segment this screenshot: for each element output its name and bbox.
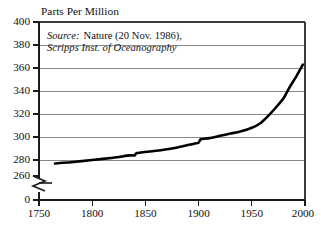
gridlines-group	[39, 45, 305, 160]
xtick-label-2000: 2000	[292, 207, 315, 219]
xtick-label-1800: 1800	[81, 207, 104, 219]
ytick-label-300: 300	[13, 130, 30, 142]
ytick-label-380: 380	[13, 38, 30, 50]
source-line2: Scripps Inst. of Oceanography	[47, 42, 177, 53]
ytick-label-360: 360	[13, 61, 30, 73]
xtick-label-1850: 1850	[134, 207, 157, 219]
source-line1-rest: Nature (20 Nov. 1986),	[84, 30, 182, 42]
ytick-label-320: 320	[13, 107, 30, 119]
xtick-label-1900: 1900	[187, 207, 210, 219]
y-tick-labels: 400 380 360 340 320 300 280 260 0	[13, 15, 30, 205]
y-axis-title: Parts Per Million	[41, 5, 119, 17]
co2-line-chart: 400 380 360 340 320 300 280 260 0 1750 1…	[0, 0, 321, 225]
ytick-label-340: 340	[13, 84, 30, 96]
axis-break-symbol	[33, 176, 52, 191]
ytick-label-260: 260	[13, 169, 30, 181]
x-tick-labels: 1750 1800 1850 1900 1950 2000	[28, 207, 315, 219]
xtick-label-1950: 1950	[241, 207, 264, 219]
ytick-label-280: 280	[13, 153, 30, 165]
svg-text:Source:Nature (20 Nov. 1986),: Source:Nature (20 Nov. 1986),	[47, 30, 182, 42]
chart-canvas: 400 380 360 340 320 300 280 260 0 1750 1…	[0, 0, 321, 225]
ytick-label-0: 0	[24, 193, 30, 205]
source-annotation: Source:Nature (20 Nov. 1986), Scripps In…	[47, 30, 182, 53]
xtick-label-1750: 1750	[28, 207, 51, 219]
source-lead-label: Source:	[47, 30, 80, 41]
ytick-label-400: 400	[13, 15, 30, 27]
